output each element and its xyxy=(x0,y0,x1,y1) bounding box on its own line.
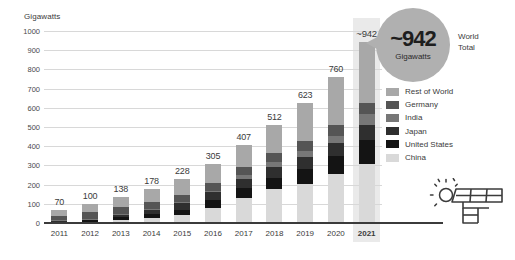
bar-segment xyxy=(236,188,252,198)
bar-column[interactable]: ~942 xyxy=(359,31,375,223)
y-tick-label: 900 xyxy=(6,46,40,55)
bar-segment xyxy=(205,208,221,223)
bar-total-label: 138 xyxy=(114,184,128,194)
y-tick-label: 300 xyxy=(6,161,40,170)
bar-segment xyxy=(113,214,129,217)
bar-segment xyxy=(174,203,190,210)
bar-total-label: 407 xyxy=(237,132,251,142)
bar-column[interactable]: 100 xyxy=(82,31,98,223)
bar-column[interactable]: 760 xyxy=(328,31,344,223)
legend-item[interactable]: China xyxy=(386,151,511,164)
legend-item-label: China xyxy=(405,153,426,162)
bar-column[interactable]: 70 xyxy=(51,31,67,223)
bar-segment xyxy=(297,151,313,158)
legend-swatch xyxy=(386,140,399,148)
bar-segment xyxy=(144,214,160,218)
bar-segment xyxy=(236,145,252,167)
bar-segment xyxy=(328,136,344,143)
bar-segment xyxy=(236,167,252,175)
bar-total-label: 100 xyxy=(83,191,97,201)
bar-total-label: 623 xyxy=(298,90,312,100)
bar-segment xyxy=(205,183,221,191)
bar-column[interactable]: 178 xyxy=(144,31,160,223)
x-tick-label: 2012 xyxy=(81,229,99,238)
legend-swatch xyxy=(386,154,399,162)
bar-segment xyxy=(236,198,252,223)
bar-column[interactable]: 623 xyxy=(297,31,313,223)
bar-segment xyxy=(359,140,375,164)
bar-segment xyxy=(51,216,67,221)
legend-item[interactable]: United States xyxy=(386,138,511,151)
bar-segment xyxy=(236,175,252,178)
bar-segment xyxy=(266,125,282,153)
bar-segment xyxy=(82,212,98,218)
bar-column[interactable]: 305 xyxy=(205,31,221,223)
y-tick-label: 500 xyxy=(6,123,40,132)
bar-segment xyxy=(144,189,160,202)
bar-segment xyxy=(205,164,221,182)
world-total-caption: World Total xyxy=(458,32,508,54)
legend-item[interactable]: Rest of World xyxy=(386,85,511,98)
legend-item[interactable]: Germany xyxy=(386,98,511,111)
legend-item-label: Rest of World xyxy=(405,87,453,96)
bar-segment xyxy=(266,167,282,178)
bar-total-label: 178 xyxy=(144,176,158,186)
y-axis-ticks: 01002003004005006007008009001000 xyxy=(2,31,40,223)
bar-segment xyxy=(359,103,375,114)
world-total-line-1: World xyxy=(458,32,508,43)
legend-swatch xyxy=(386,114,399,122)
bar-segment xyxy=(297,157,313,169)
bar-column[interactable]: 228 xyxy=(174,31,190,223)
x-tick-label: 2020 xyxy=(327,229,345,238)
world-total-line-2: Total xyxy=(458,43,508,54)
callout-unit: Gigawatts xyxy=(376,52,450,61)
bar-segment xyxy=(51,210,67,216)
bar-segment xyxy=(359,42,375,102)
solar-panel-sun-icon xyxy=(420,178,512,234)
legend-swatch xyxy=(386,101,399,109)
bar-column[interactable]: 407 xyxy=(236,31,252,223)
y-tick-label: 800 xyxy=(6,65,40,74)
bar-column[interactable]: 138 xyxy=(113,31,129,223)
bar-segment xyxy=(359,114,375,126)
y-tick-label: 700 xyxy=(6,84,40,93)
y-axis-title: Gigawatts xyxy=(24,12,60,21)
bar-segment xyxy=(266,189,282,223)
legend-item[interactable]: India xyxy=(386,111,511,124)
chart-canvas: Gigawatts 010020030040050060070080090010… xyxy=(0,0,515,260)
x-tick-label: 2016 xyxy=(204,229,222,238)
bar-segment xyxy=(174,210,190,215)
bar-segment xyxy=(205,200,221,208)
y-tick-label: 1000 xyxy=(6,27,40,36)
bar-segment xyxy=(328,174,344,223)
bar-column[interactable]: 512 xyxy=(266,31,282,223)
x-tick-label: 2021 xyxy=(358,229,376,238)
bar-segment xyxy=(82,219,98,220)
bar-segment xyxy=(51,221,67,222)
bar-segment xyxy=(144,209,160,210)
legend-swatch xyxy=(386,88,399,96)
bar-segment xyxy=(359,164,375,223)
legend-item-label: United States xyxy=(405,140,453,149)
bar-segment xyxy=(328,77,344,125)
bar-segment xyxy=(174,195,190,203)
legend-item[interactable]: Japan xyxy=(386,125,511,138)
legend-item-label: Japan xyxy=(405,127,427,136)
y-tick-label: 600 xyxy=(6,103,40,112)
x-tick-label: 2017 xyxy=(235,229,253,238)
x-tick-label: 2013 xyxy=(112,229,130,238)
chart-legend: Rest of WorldGermanyIndiaJapanUnited Sta… xyxy=(386,85,511,164)
x-tick-label: 2018 xyxy=(266,229,284,238)
legend-item-label: India xyxy=(405,113,422,122)
y-tick-label: 400 xyxy=(6,142,40,151)
bar-segment xyxy=(113,207,129,214)
bar-segment xyxy=(297,184,313,223)
bar-total-label: 512 xyxy=(267,112,281,122)
bar-segment xyxy=(236,179,252,188)
world-total-callout: ~942 Gigawatts xyxy=(376,8,450,82)
x-tick-label: 2011 xyxy=(51,229,68,238)
bar-segment xyxy=(266,153,282,162)
y-tick-label: 200 xyxy=(6,180,40,189)
bar-segment xyxy=(174,202,190,203)
bar-segment xyxy=(328,125,344,135)
